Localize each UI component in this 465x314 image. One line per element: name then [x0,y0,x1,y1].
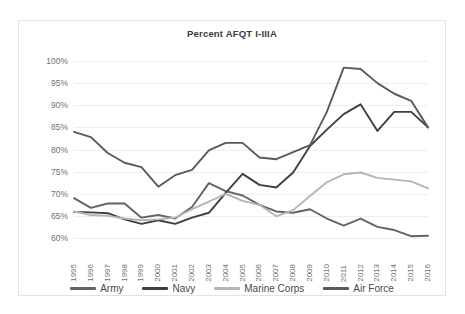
x-axis-tick-label: 2000 [154,264,162,282]
legend-item-air-force[interactable]: Air Force [323,283,394,294]
plot-area: 60%65%70%75%80%85%90%95%100% [74,61,428,238]
legend-item-army[interactable]: Army [70,283,123,294]
x-axis-tick-label: 2012 [357,264,365,282]
y-axis-tick-label: 70% [51,189,68,199]
y-axis-tick-label: 100% [46,56,68,66]
y-axis-tick-label: 65% [51,211,68,221]
y-axis-tick-label: 80% [51,145,68,155]
x-axis-tick-label: 2002 [188,264,196,282]
x-axis-tick-label: 2001 [171,264,179,282]
x-axis-tick-label: 1996 [87,264,95,282]
x-axis-tick-label: 1998 [121,264,129,282]
legend-item-navy[interactable]: Navy [142,283,195,294]
x-axis-tick-label: 2013 [373,264,381,282]
chart-title: Percent AFQT I-IIIA [19,28,445,39]
legend-label: Marine Corps [244,283,304,294]
x-axis-tick-label: 2009 [306,264,314,282]
x-axis-tick-label: 2014 [390,264,398,282]
chart-legend: ArmyNavyMarine CorpsAir Force [19,283,445,294]
legend-swatch-icon [70,287,96,290]
x-axis-tick-label: 2004 [222,264,230,282]
legend-label: Navy [172,283,195,294]
x-axis-tick-label: 1997 [104,264,112,282]
legend-item-marine-corps[interactable]: Marine Corps [214,283,304,294]
legend-swatch-icon [323,287,349,290]
series-lines [74,61,428,238]
legend-label: Air Force [353,283,394,294]
x-axis-tick-label: 2007 [272,264,280,282]
x-axis-tick-label: 2011 [340,265,348,282]
x-axis-tick-label: 2006 [255,264,263,282]
y-axis-tick-label: 95% [51,78,68,88]
series-line-army [74,183,428,236]
x-axis-tick-label: 2003 [205,264,213,282]
y-axis-tick-label: 85% [51,122,68,132]
gridline: 60% [74,238,428,239]
x-axis-tick-label: 1995 [70,264,78,282]
y-axis-tick-label: 75% [51,167,68,177]
legend-label: Army [100,283,123,294]
y-axis-tick-label: 90% [51,100,68,110]
y-axis-tick-label: 60% [51,233,68,243]
x-axis-labels: 1995199619971998199920002001200220032004… [74,240,428,282]
x-axis-tick-label: 2015 [407,264,415,282]
chart-card: Percent AFQT I-IIIA 60%65%70%75%80%85%90… [18,20,446,296]
legend-swatch-icon [214,287,240,290]
x-axis-tick-label: 2005 [239,264,247,282]
x-axis-tick-label: 2010 [323,264,331,282]
x-axis-tick-label: 2008 [289,264,297,282]
x-axis-tick-label: 2016 [424,264,432,282]
x-axis-tick-label: 1999 [137,264,145,282]
legend-swatch-icon [142,287,168,290]
